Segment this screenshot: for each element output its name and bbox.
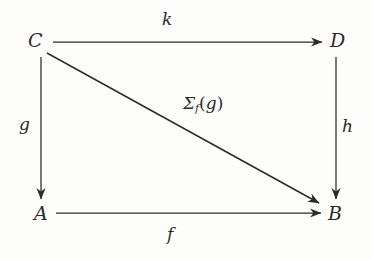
sigma-argument-g: g [206, 93, 217, 113]
edge-label-h: h [342, 118, 353, 135]
diagram-arrows-svg [0, 0, 372, 259]
edge-label-sigma-f-g: Σf(g) [183, 95, 223, 114]
sigma-close-paren: ) [217, 93, 224, 113]
sigma-glyph: Σ [183, 93, 195, 113]
edge-label-g: g [19, 116, 30, 133]
node-label-D: D [330, 31, 345, 50]
node-label-A: A [34, 204, 48, 223]
commutative-diagram-canvas: C D A B k g h f Σf(g) [0, 0, 372, 259]
edge-label-k: k [162, 11, 172, 28]
arrow-sigma-f-g [47, 53, 319, 203]
node-label-B: B [328, 204, 342, 223]
edge-label-f: f [167, 226, 173, 243]
node-label-C: C [28, 31, 43, 50]
sigma-open-paren: ( [199, 93, 206, 113]
